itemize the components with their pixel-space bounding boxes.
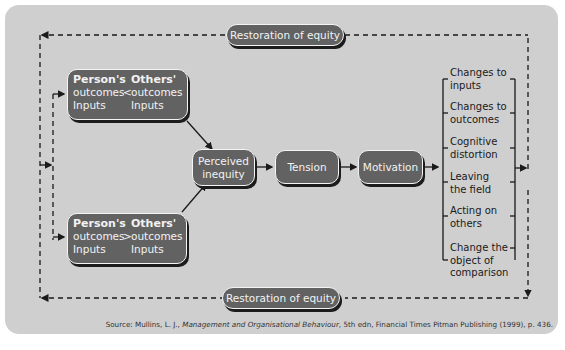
person-outcomes: outcomes [73, 230, 123, 243]
others-outcomes: outcomes [131, 230, 183, 243]
option-changes-to-inputs: Changes to inputs [450, 67, 522, 92]
motivation-label: Motivation [363, 161, 418, 174]
option-line: Change the [450, 242, 522, 255]
option-line: Acting on [450, 205, 522, 218]
option-line: comparison [450, 267, 522, 280]
less-than-operator: < [123, 86, 131, 99]
restoration-top-label: Restoration of equity [230, 29, 340, 42]
tension-label: Tension [287, 161, 326, 174]
restoration-of-equity-top: Restoration of equity [226, 24, 344, 46]
option-line: the field [450, 184, 522, 197]
greater-than-operator: > [123, 230, 131, 243]
option-line: outcomes [450, 114, 522, 127]
inequity-label: inequity [202, 168, 245, 181]
others-inputs: Inputs [131, 243, 164, 256]
source-book-title: Management and Organisational Behaviour [182, 320, 339, 329]
others-label: Others' [131, 217, 176, 230]
option-line: Changes to [450, 101, 522, 114]
option-line: Changes to [450, 67, 522, 80]
person-label: Person's [73, 73, 131, 86]
restoration-of-equity-bottom: Restoration of equity [222, 287, 340, 309]
perceived-label: Perceived [198, 155, 249, 168]
option-cognitive-distortion: Cognitive distortion [450, 136, 522, 161]
person-inputs: Inputs [73, 99, 131, 112]
person-outcomes: outcomes [73, 86, 123, 99]
comparison-box-over-rewarded: Person's Others' outcomes > outcomes Inp… [67, 213, 187, 264]
comparison-box-under-rewarded: Person's Others' outcomes < outcomes Inp… [67, 69, 188, 120]
option-line: inputs [450, 80, 522, 93]
option-leaving-the-field: Leaving the field [450, 171, 522, 196]
motivation-box: Motivation [358, 150, 423, 184]
source-prefix: Source: Mullins, L. J., [106, 320, 183, 329]
option-changes-to-outcomes: Changes to outcomes [450, 101, 522, 126]
option-line: Leaving [450, 171, 522, 184]
option-line: object of [450, 255, 522, 268]
option-line: others [450, 218, 522, 231]
source-citation: Source: Mullins, L. J., Management and O… [0, 320, 553, 329]
option-line: Cognitive [450, 136, 522, 149]
restoration-bottom-label: Restoration of equity [226, 292, 336, 305]
option-line: distortion [450, 149, 522, 162]
option-acting-on-others: Acting on others [450, 205, 522, 230]
person-inputs: Inputs [73, 243, 131, 256]
tension-box: Tension [275, 150, 339, 184]
others-inputs: Inputs [131, 99, 164, 112]
perceived-inequity-box: Perceived inequity [192, 149, 255, 186]
others-label: Others' [131, 73, 176, 86]
person-label: Person's [73, 217, 131, 230]
source-suffix: , 5th edn, Financial Times Pitman Publis… [339, 320, 553, 329]
others-outcomes: outcomes [131, 86, 183, 99]
option-change-object-of-comparison: Change the object of comparison [450, 242, 522, 280]
